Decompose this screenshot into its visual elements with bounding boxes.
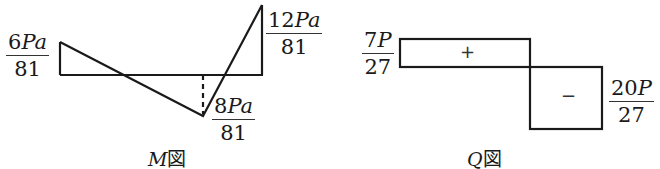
- m-right-var: Pa: [295, 8, 321, 32]
- q-caption-suffix: 図: [483, 148, 502, 169]
- q-left-coef: 7: [364, 28, 377, 52]
- m-caption-var: M: [148, 148, 167, 169]
- q-label-right: 20P 27: [609, 76, 654, 127]
- fraction-bar: [266, 33, 322, 34]
- m-bottom-den: 81: [220, 121, 247, 145]
- m-bottom-coef: 8: [214, 94, 227, 118]
- m-label-right: 12Pa 81: [266, 8, 322, 59]
- q-left-den: 27: [364, 55, 391, 79]
- q-left-var: P: [377, 28, 391, 52]
- m-left-coef: 6: [8, 30, 21, 54]
- q-positive-sign: +: [460, 41, 475, 62]
- shear-diagram: [400, 39, 602, 129]
- m-right-den: 81: [281, 35, 308, 59]
- fraction-bar: [212, 119, 255, 120]
- m-label-left: 6Pa 81: [6, 30, 49, 81]
- fraction-bar: [362, 53, 394, 54]
- m-caption-suffix: 図: [167, 148, 186, 169]
- q-right-var: P: [638, 76, 652, 100]
- m-left-var: Pa: [21, 30, 47, 54]
- m-diagram-caption: M図: [148, 144, 186, 169]
- q-right-coef: 20: [611, 76, 638, 100]
- m-label-bottom: 8Pa 81: [212, 94, 255, 145]
- q-right-den: 27: [618, 103, 645, 127]
- m-bottom-var: Pa: [227, 94, 253, 118]
- m-left-den: 81: [14, 57, 41, 81]
- q-caption-var: Q: [467, 148, 483, 169]
- m-right-coef: 12: [268, 8, 295, 32]
- fraction-bar: [6, 55, 49, 56]
- q-negative-sign: −: [561, 85, 576, 106]
- fraction-bar: [609, 101, 654, 102]
- q-label-left: 7P 27: [362, 28, 394, 79]
- q-diagram-caption: Q図: [467, 144, 502, 169]
